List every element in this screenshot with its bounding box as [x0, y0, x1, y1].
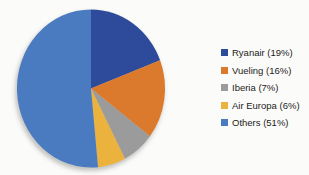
legend-swatch-icon — [221, 49, 228, 56]
legend-label: Others (51%) — [232, 117, 289, 128]
legend-label: Ryanair (19%) — [232, 47, 293, 58]
legend-swatch-icon — [221, 84, 228, 91]
legend-item-ryanair: Ryanair (19%) — [221, 47, 300, 58]
legend-label: Iberia (7%) — [232, 82, 278, 93]
legend-item-iberia: Iberia (7%) — [221, 82, 300, 93]
legend-swatch-icon — [221, 102, 228, 109]
legend-label: Vueling (16%) — [232, 65, 291, 76]
chart-canvas: Ryanair (19%)Vueling (16%)Iberia (7%)Air… — [0, 0, 309, 175]
pie-slice-others — [17, 9, 98, 167]
pie-slices — [17, 9, 165, 167]
legend-item-others: Others (51%) — [221, 117, 300, 128]
legend-swatch-icon — [221, 119, 228, 126]
legend-item-air-europa: Air Europa (6%) — [221, 100, 300, 111]
legend-swatch-icon — [221, 67, 228, 74]
legend-item-vueling: Vueling (16%) — [221, 65, 300, 76]
legend-label: Air Europa (6%) — [232, 100, 300, 111]
legend: Ryanair (19%)Vueling (16%)Iberia (7%)Air… — [221, 47, 300, 135]
